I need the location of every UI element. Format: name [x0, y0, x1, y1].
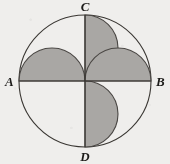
label-a: A [4, 74, 14, 89]
figure-canvas: A B C D [0, 0, 170, 164]
geometry-figure: A B C D [0, 0, 170, 164]
label-c: C [81, 0, 90, 14]
lower-left-semicircle [85, 81, 118, 147]
label-d: D [79, 149, 90, 164]
label-b: B [155, 74, 165, 89]
upper-left-semicircle [19, 48, 85, 81]
